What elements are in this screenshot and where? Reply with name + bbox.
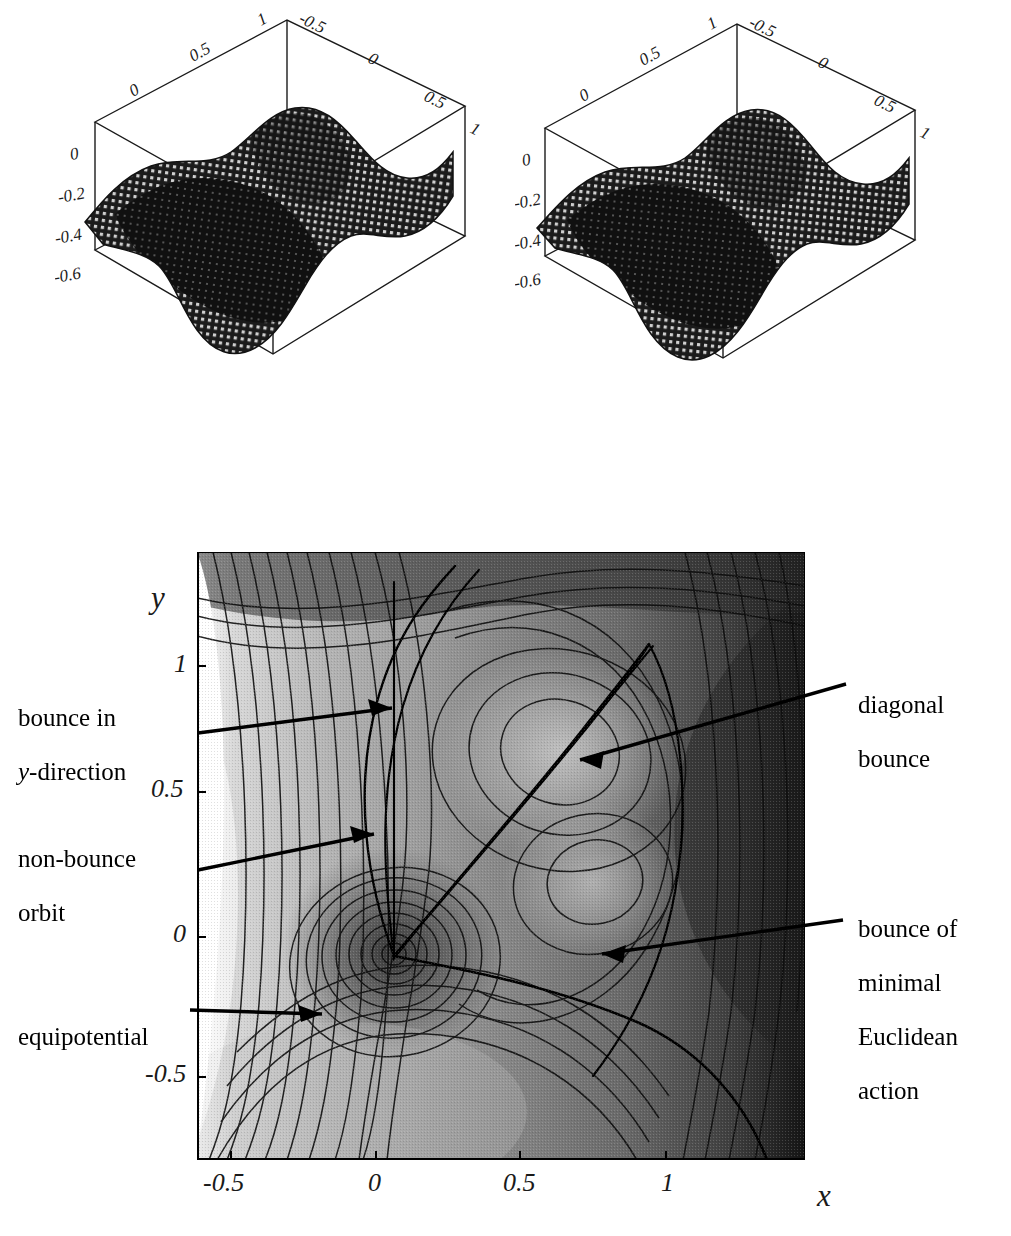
surface-left-ztick-1: -0.2 — [56, 183, 86, 206]
surface-left-ytick-0: -0.5 — [296, 9, 329, 38]
leader-bounce-y — [198, 708, 392, 733]
surface-left-ytick-2: 0.5 — [421, 87, 448, 113]
potential-surface-mesh-right — [515, 86, 945, 406]
surface-plot-left: 0 0.5 1 -0.5 0 0.5 1 0 -0.2 -0.4 -0.6 — [55, 0, 485, 445]
annotation-diagonal-line2: bounce — [858, 745, 944, 772]
surface-plot-right-canvas: 0 0.5 1 -0.5 0 0.5 1 0 -0.2 -0.4 -0.6 — [515, 0, 945, 445]
surface-right-xtick-0: 0 — [576, 85, 593, 106]
annotation-minimal-line1: bounce of — [858, 915, 958, 942]
annotation-minimal-line3: Euclidean — [858, 1023, 958, 1050]
surface-plot-left-canvas: 0 0.5 1 -0.5 0 0.5 1 0 -0.2 -0.4 -0.6 — [55, 0, 485, 445]
leader-non-bounce — [198, 834, 374, 870]
annotation-equipotential-line1: equipotential — [18, 1023, 149, 1050]
annotation-diagonal-bounce: diagonal bounce — [858, 664, 944, 799]
surface-left-ztick-2: -0.4 — [55, 224, 84, 247]
surface-right-ytick-3: 1 — [917, 123, 933, 144]
surface-left-xtick-2: 1 — [254, 9, 271, 30]
annotation-minimal-line2: minimal — [858, 969, 958, 996]
surface-left-ztick-3: -0.6 — [55, 263, 83, 286]
annotation-non-bounce-line1: non-bounce — [18, 845, 136, 872]
surface-right-xtick-2: 1 — [704, 13, 721, 34]
surface-right-ztick-1: -0.2 — [515, 189, 543, 212]
annotation-bounce-in-y-direction: bounce in y-direction — [18, 677, 126, 812]
surface-right-ztick-2: -0.4 — [515, 230, 543, 253]
annotation-minimal-line4: action — [858, 1077, 958, 1104]
annotation-bounce-y-line2: y-direction — [18, 758, 126, 785]
surface-right-ytick-1: 0 — [815, 53, 831, 74]
annotation-non-bounce-orbit: non-bounce orbit — [18, 818, 136, 953]
surface-right-ytick-0: -0.5 — [746, 13, 779, 42]
annotation-bounce-y-line1: bounce in — [18, 704, 126, 731]
annotation-minimal-euclidean-action: bounce of minimal Euclidean action — [858, 888, 958, 1131]
annotation-non-bounce-line2: orbit — [18, 899, 136, 926]
italic-y-glyph: y — [18, 758, 29, 785]
annotation-equipotential: equipotential — [18, 996, 149, 1077]
surface-plot-right: 0 0.5 1 -0.5 0 0.5 1 0 -0.2 -0.4 -0.6 — [515, 0, 945, 445]
annotation-diagonal-line1: diagonal — [858, 691, 944, 718]
surface-right-ytick-2: 0.5 — [871, 91, 898, 117]
surface-left-ztick-0: 0 — [68, 144, 80, 164]
leader-diagonal-bounce — [580, 684, 846, 760]
surface-right-ztick-3: -0.6 — [515, 269, 543, 292]
annotation-arrowheads — [298, 699, 626, 1022]
surface-left-xtick-0: 0 — [126, 80, 143, 101]
surface-left-ytick-1: 0 — [365, 49, 381, 70]
surface-right-ztick-0: 0 — [520, 150, 532, 170]
contour-figure: y 1 0.5 0 -0.5 -0.5 0 0.5 1 x — [0, 520, 1011, 1236]
surface-left-ytick-3: 1 — [467, 119, 483, 140]
leader-minimal-action — [602, 920, 843, 954]
